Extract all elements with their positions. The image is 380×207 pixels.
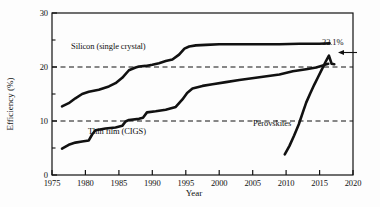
x-tick-label-1995: 1995 xyxy=(177,178,194,188)
x-tick-label-1985: 1985 xyxy=(111,178,128,188)
y-axis-title: Efficiency (%) xyxy=(5,54,15,154)
x-axis-title: Year xyxy=(4,188,380,198)
series-label-thin-film: Thin film (CIGS) xyxy=(88,126,146,136)
x-tick-label-1990: 1990 xyxy=(144,178,161,188)
annotation-arrow-icon xyxy=(338,50,357,55)
y-tick-label-10: 10 xyxy=(32,116,48,126)
data-series-group xyxy=(62,43,334,154)
plot-frame xyxy=(52,13,353,175)
efficiency-chart-figure: 0 10 20 30 1975 1980 1985 1990 1995 2000… xyxy=(0,0,380,207)
x-tick-label-1975: 1975 xyxy=(44,178,61,188)
chart-canvas xyxy=(0,0,380,207)
series-label-silicon: Silicon (single crystal) xyxy=(71,41,146,51)
y-tick-label-30: 30 xyxy=(32,8,48,18)
x-tick-label-2020: 2020 xyxy=(345,178,362,188)
series-label-perovskites: Perovskites xyxy=(253,118,291,128)
reference-lines xyxy=(52,67,353,121)
x-axis-ticks xyxy=(52,170,353,175)
y-tick-label-20: 20 xyxy=(32,62,48,72)
peak-efficiency-annotation: 22.1% xyxy=(322,37,343,47)
x-tick-label-1980: 1980 xyxy=(77,178,94,188)
x-tick-label-2015: 2015 xyxy=(311,178,328,188)
x-tick-label-2010: 2010 xyxy=(278,178,295,188)
series-line-silicon xyxy=(62,43,330,106)
x-tick-label-2000: 2000 xyxy=(211,178,228,188)
x-tick-label-2005: 2005 xyxy=(244,178,261,188)
y-axis-ticks xyxy=(52,13,57,175)
